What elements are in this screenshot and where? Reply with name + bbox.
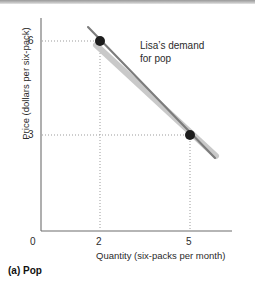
demand-curve-annotation: Lisa’s demand for pop — [140, 40, 204, 65]
x-tick-label: 5 — [186, 236, 192, 247]
figure-caption: (a) Pop — [8, 265, 42, 276]
demand-curve-figure: 6 3 0 2 5 Price (dollars per six-pack) Q… — [0, 0, 255, 282]
x-tick-label: 2 — [96, 236, 102, 247]
x-tick-label: 0 — [30, 236, 36, 247]
data-point-marker — [185, 130, 195, 140]
plot-area — [0, 0, 255, 282]
data-point-marker — [95, 36, 105, 46]
x-axis-label: Quantity (six-packs per month) — [96, 250, 225, 261]
annotation-line-1: Lisa’s demand — [140, 40, 204, 53]
y-axis-label: Price (dollars per six-pack) — [20, 14, 31, 154]
annotation-line-2: for pop — [140, 53, 204, 66]
